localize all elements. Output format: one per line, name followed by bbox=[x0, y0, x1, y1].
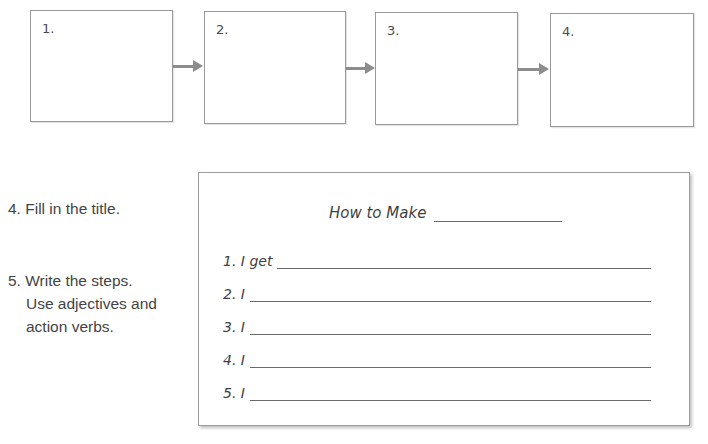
instruction-fill-title: 4. Fill in the title. bbox=[8, 197, 120, 220]
sequence-box-1[interactable]: 1. bbox=[30, 10, 173, 122]
sequence-box-2[interactable]: 2. bbox=[204, 11, 346, 124]
step-line-2: 2. I bbox=[223, 286, 651, 302]
step-line-label: 5. I bbox=[223, 385, 250, 401]
card-title: How to Make bbox=[329, 204, 562, 222]
step-line-label: 4. I bbox=[223, 352, 250, 368]
sequence-box-number: 4. bbox=[562, 24, 574, 39]
title-blank-field[interactable] bbox=[434, 207, 562, 222]
right-arrow-icon bbox=[518, 68, 540, 71]
right-arrow-icon bbox=[173, 65, 194, 68]
card-title-label: How to Make bbox=[329, 204, 426, 222]
instruction-text: 4. Fill in the title. bbox=[8, 200, 120, 217]
sequence-box-number: 3. bbox=[387, 23, 399, 38]
step-line-label: 1. I get bbox=[223, 253, 277, 269]
sequence-box-number: 1. bbox=[42, 21, 54, 36]
sequence-box-4[interactable]: 4. bbox=[550, 13, 694, 127]
step-blank-field[interactable] bbox=[277, 256, 651, 269]
step-blank-field[interactable] bbox=[250, 388, 651, 401]
step-blank-field[interactable] bbox=[250, 322, 651, 335]
instruction-write-steps: 5. Write the steps. Use adjectives and a… bbox=[8, 269, 157, 338]
step-line-label: 3. I bbox=[223, 319, 250, 335]
instruction-text: 5. Write the steps. bbox=[8, 269, 157, 292]
step-line-3: 3. I bbox=[223, 319, 651, 335]
step-line-1: 1. I get bbox=[223, 253, 651, 269]
step-line-4: 4. I bbox=[223, 352, 651, 368]
right-arrow-icon bbox=[346, 67, 366, 70]
step-blank-field[interactable] bbox=[250, 355, 651, 368]
worksheet-card: How to Make 1. I get 2. I 3. I 4. I 5. I bbox=[198, 172, 690, 426]
step-line-5: 5. I bbox=[223, 385, 651, 401]
instruction-text: Use adjectives and bbox=[8, 292, 157, 315]
step-line-label: 2. I bbox=[223, 286, 250, 302]
instruction-text: action verbs. bbox=[8, 315, 157, 338]
sequence-box-number: 2. bbox=[216, 22, 228, 37]
step-blank-field[interactable] bbox=[250, 289, 651, 302]
sequence-box-3[interactable]: 3. bbox=[375, 12, 518, 125]
